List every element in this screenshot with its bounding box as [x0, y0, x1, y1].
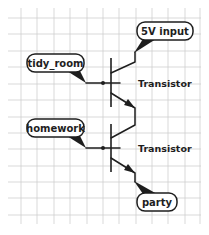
homework-bubble: homework — [26, 119, 86, 148]
party-label: party — [142, 197, 173, 208]
circuit-diagram: Transistor Transistor 5V input tidy_room… — [0, 0, 209, 235]
junction-dot-icon — [101, 81, 105, 85]
tidy-room-bubble: tidy_room — [27, 54, 86, 83]
supply-bubble: 5V input — [134, 22, 193, 53]
tidy-room-label: tidy_room — [28, 58, 84, 70]
bubble-tail-icon — [134, 181, 157, 194]
emitter-arrow-icon — [124, 164, 135, 173]
party-bubble: party — [134, 181, 177, 211]
homework-label: homework — [26, 123, 85, 134]
transistor-2-label: Transistor — [138, 143, 192, 154]
junction-dot-icon — [101, 146, 105, 150]
transistor-1: Transistor — [86, 52, 192, 138]
transistor-1-label: Transistor — [138, 78, 192, 89]
supply-label: 5V input — [141, 26, 189, 37]
transistor-1-collector-wire — [111, 52, 135, 73]
